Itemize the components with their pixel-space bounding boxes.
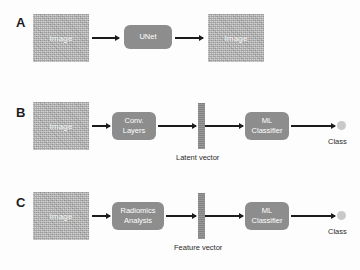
panel-a-arrow-unet-to-output [175, 37, 203, 39]
panel-c: C Image Radiomics Analysis Feature vecto… [0, 180, 360, 270]
panel-c-arrow-input-to-radiomics [92, 215, 110, 217]
panel-c-arrow-vector-to-classifier [205, 215, 243, 217]
panel-b-class-label: Class [328, 137, 347, 146]
panel-a-unet-box: UNet [124, 25, 172, 49]
pipeline-figure: A Image UNet Image B Image Conv. Layers … [0, 0, 360, 270]
panel-c-radiomics-analysis-line1: Radiomics [120, 206, 155, 216]
panel-b-conv-layers-box: Conv. Layers [112, 112, 156, 140]
panel-c-arrow-classifier-to-class [291, 215, 335, 217]
panel-c-class-label: Class [328, 227, 347, 236]
panel-c-input-image: Image [33, 192, 89, 240]
panel-c-ml-classifier-line2: Classifier [252, 216, 283, 226]
panel-a-output-image-label: Image [224, 34, 247, 43]
panel-b-ml-classifier-line1: ML [262, 116, 272, 126]
panel-a-input-image-label: Image [49, 34, 72, 43]
panel-b-conv-layers-line1: Conv. [124, 116, 143, 126]
panel-c-input-image-label: Image [49, 212, 72, 221]
panel-b-arrow-conv-to-vector [158, 125, 196, 127]
panel-letter-b: B [16, 106, 25, 119]
panel-c-radiomics-analysis-line2: Analysis [124, 216, 152, 226]
panel-b-class-dot [337, 121, 346, 130]
panel-b-arrow-classifier-to-class [291, 125, 335, 127]
panel-c-radiomics-analysis-box: Radiomics Analysis [112, 202, 164, 230]
panel-c-class-dot [337, 211, 346, 220]
panel-c-ml-classifier-box: ML Classifier [245, 202, 289, 230]
panel-c-feature-vector-caption: Feature vector [174, 243, 222, 252]
panel-b-ml-classifier-box: ML Classifier [245, 112, 289, 140]
panel-c-arrow-radiomics-to-vector [166, 215, 196, 217]
panel-a: A Image UNet Image [0, 0, 360, 90]
panel-letter-a: A [16, 16, 25, 29]
panel-a-arrow-input-to-unet [92, 37, 119, 39]
panel-a-input-image: Image [33, 14, 89, 62]
panel-b-conv-layers-line2: Layers [123, 126, 146, 136]
panel-b-latent-vector-bar [198, 103, 205, 149]
panel-letter-c: C [16, 196, 25, 209]
panel-b-input-image-label: Image [49, 122, 72, 131]
panel-b-latent-vector-caption: Latent vector [176, 153, 219, 162]
panel-b: B Image Conv. Layers Latent vector ML Cl… [0, 90, 360, 180]
panel-a-output-image: Image [208, 14, 264, 62]
panel-c-ml-classifier-line1: ML [262, 206, 272, 216]
panel-c-feature-vector-bar [198, 193, 205, 239]
panel-b-input-image: Image [33, 102, 89, 150]
panel-a-unet-label: UNet [139, 32, 156, 42]
panel-b-arrow-vector-to-classifier [205, 125, 243, 127]
panel-b-arrow-input-to-conv [92, 125, 110, 127]
panel-b-ml-classifier-line2: Classifier [252, 126, 283, 136]
